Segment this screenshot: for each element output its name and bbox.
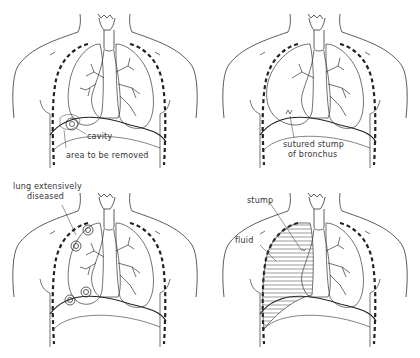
label-fluid: fluid	[235, 236, 253, 245]
fluid-area	[263, 223, 314, 329]
label-of-bronchus: of bronchus	[288, 150, 337, 159]
label-area-to-be-removed: area to be removed	[66, 151, 149, 160]
label-stump: stump	[247, 196, 273, 205]
label-sutured-stump: sutured stump	[283, 140, 344, 149]
panel-fluid-filled-cavity: stump fluid	[210, 179, 420, 358]
panel-cavity-resection: cavity area to be removed	[0, 0, 210, 179]
label-cavity: cavity	[87, 132, 112, 141]
chest-diagram	[0, 179, 210, 358]
panel-sutured-stump: sutured stump of bronchus	[210, 0, 420, 179]
label-diseased: diseased	[27, 192, 64, 201]
stump-marker	[286, 110, 292, 114]
label-lung-extensively: lung extensively	[13, 182, 82, 191]
panel-diseased-lung: lung extensively diseased	[0, 179, 210, 358]
chest-diagram	[210, 179, 420, 358]
